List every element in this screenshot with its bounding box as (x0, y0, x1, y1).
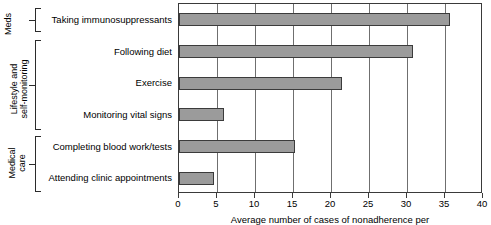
gridline (293, 4, 294, 192)
category-label: Completing blood work/tests (53, 141, 172, 152)
x-axis-tick-label: 5 (201, 198, 231, 209)
bar (179, 108, 224, 121)
bar (179, 13, 450, 26)
bar (179, 140, 295, 153)
bracket-center-tick (29, 20, 35, 21)
group-label-medical-care: Medical care (7, 135, 29, 191)
plot-area (178, 3, 482, 193)
category-label: Taking immunosuppressants (52, 14, 172, 25)
x-axis-title: Average number of cases of nonadherence … (178, 214, 482, 225)
gridline (407, 4, 408, 192)
gridline (331, 4, 332, 192)
bracket-spine (35, 40, 36, 130)
bar (179, 172, 214, 185)
group-label-meds: Meds (3, 4, 15, 44)
bracket-spine (35, 8, 36, 32)
x-axis-tick-label: 40 (467, 198, 491, 209)
category-label: Exercise (136, 77, 172, 88)
category-label: Monitoring vital signs (83, 109, 172, 120)
bracket-center-tick (29, 85, 35, 86)
x-axis-tick-label: 35 (429, 198, 459, 209)
bar-chart-figure: Meds Lifestyle and self-monitoring Medic… (0, 0, 491, 225)
bracket-spine (35, 136, 36, 192)
x-axis-tick-label: 30 (391, 198, 421, 209)
x-axis-tick-label: 25 (353, 198, 383, 209)
x-axis-tick-label: 15 (277, 198, 307, 209)
bar (179, 45, 413, 58)
category-axis-labels: Taking immunosuppressants Following diet… (38, 0, 172, 193)
gridline (445, 4, 446, 192)
gridline (369, 4, 370, 192)
bracket-center-tick (29, 164, 35, 165)
bar (179, 77, 342, 90)
x-axis-tick-label: 20 (315, 198, 345, 209)
gridline (255, 4, 256, 192)
category-label: Following diet (114, 46, 172, 57)
x-axis-tick-label: 10 (239, 198, 269, 209)
gridline (217, 4, 218, 192)
category-label: Attending clinic appointments (48, 172, 172, 183)
x-axis-tick-label: 0 (163, 198, 193, 209)
